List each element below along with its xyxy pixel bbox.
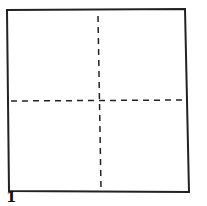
step-number: 1 xyxy=(6,190,16,205)
diagram-canvas xyxy=(0,0,207,206)
